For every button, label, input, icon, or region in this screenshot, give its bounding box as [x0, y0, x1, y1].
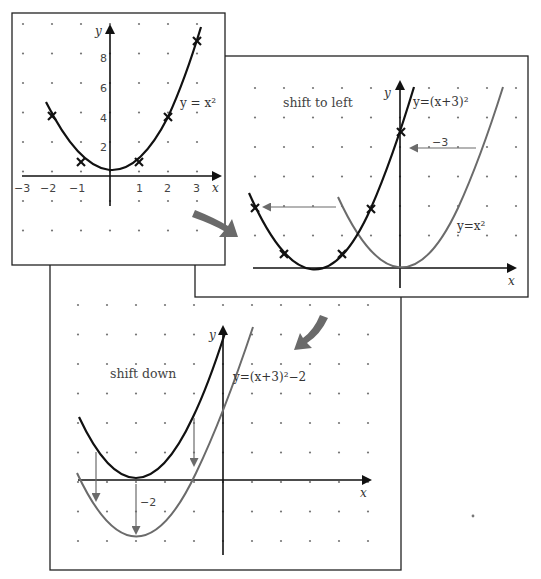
y-tick-4: 4: [100, 112, 107, 125]
y-tick-2: 2: [100, 141, 107, 154]
x-axis-label: x: [360, 486, 367, 500]
shift-amount-label: −2: [140, 496, 156, 509]
x-tick: −2: [40, 182, 56, 195]
equation-original-label: y=x²: [456, 219, 486, 233]
panel-shift-down: x y shift down y=(x+3)²−2 −2: [50, 250, 401, 570]
x-tick: 3: [193, 182, 200, 195]
x-tick: −3: [14, 182, 30, 195]
panel-shift-left: x y −3 shift to left y=(x+3)² y=x²: [195, 56, 528, 297]
equation-label: y = x²: [179, 96, 216, 110]
equation-label: y=(x+3)²−2: [232, 370, 306, 384]
y-tick-6: 6: [100, 82, 107, 95]
y-axis-label: y: [383, 86, 391, 100]
x-tick: −1: [69, 182, 85, 195]
x-tick: 2: [164, 182, 171, 195]
title-shift-down: shift down: [110, 366, 176, 381]
y-axis-label: y: [94, 24, 102, 38]
panel-frame: [50, 250, 401, 570]
stray-dot: [472, 515, 475, 518]
x-tick: 1: [136, 182, 143, 195]
panel-original: x y 2 4 6 8 −3 −2 −1 1 2 3 y = x²: [12, 13, 225, 265]
panel-frame: [195, 56, 528, 297]
equation-shifted-label: y=(x+3)²: [412, 95, 469, 109]
x-axis-label: x: [212, 181, 219, 195]
y-tick-8: 8: [100, 52, 107, 65]
x-axis-label: x: [508, 274, 515, 288]
title-shift-left: shift to left: [283, 95, 353, 110]
shift-amount-label: −3: [432, 136, 448, 149]
parabola-transformation-diagram: x y shift down y=(x+3)²−2 −2 x y: [0, 0, 541, 579]
y-axis-label: y: [208, 328, 216, 342]
